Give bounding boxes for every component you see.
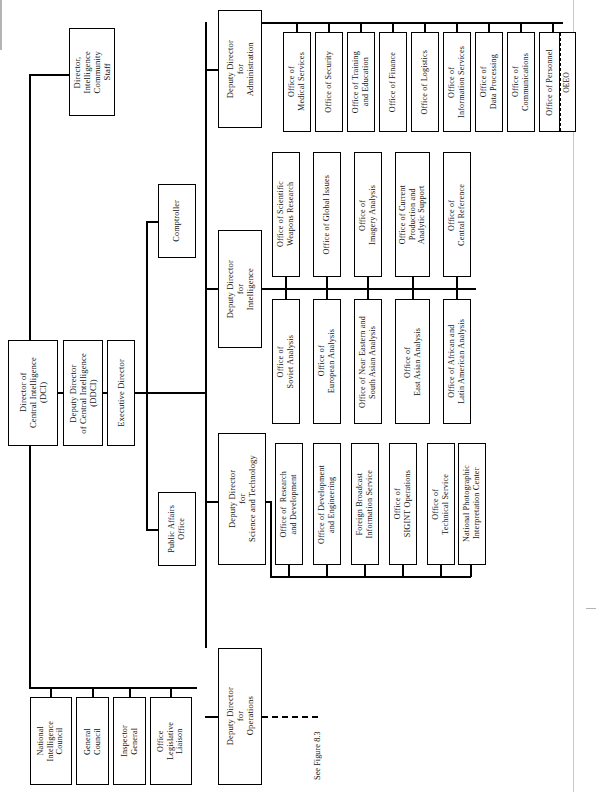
staff-drop-2 <box>129 687 131 698</box>
node-ic-staff-label: Director, Intelligence Community Staff <box>72 51 113 93</box>
page-tick-left <box>0 0 2 50</box>
node-comptroller[interactable]: Comptroller <box>158 184 196 258</box>
intel-low-drop-4 <box>456 288 458 300</box>
node-comptroller-label: Comptroller <box>172 200 182 242</box>
node-label: Office Legislative Liaison <box>156 722 185 760</box>
node-label: Office of Central Reference <box>447 184 466 246</box>
node-dd-intelligence-label: Deputy Director for Intelligence <box>225 260 255 318</box>
scitech-drop-2 <box>364 564 366 577</box>
node-office-legislative-liaison[interactable]: Office Legislative Liaison <box>150 697 192 785</box>
node-label: Foreign Broadcast Information Service <box>355 470 374 539</box>
node-general-council[interactable]: General Council <box>76 697 109 785</box>
node-label: Office of Security <box>324 51 334 113</box>
node-office-training-education[interactable]: Office of Training and Education <box>347 32 375 132</box>
node-dd-intelligence[interactable]: Deputy Director for Intelligence <box>218 230 262 348</box>
node-office-current-production[interactable]: Office of Current Production and Analyti… <box>395 152 430 277</box>
link-publicaffairs-vertical <box>146 392 148 530</box>
node-office-technical-service[interactable]: Office of Technical Service <box>427 443 455 565</box>
staff-drop-0 <box>50 687 52 698</box>
node-label: Office of Finance <box>388 52 398 112</box>
admin-drop-1 <box>328 22 330 33</box>
node-dci[interactable]: Director of Central Intelligence (DCI) <box>8 340 58 446</box>
node-office-central-reference[interactable]: Office of Central Reference <box>443 152 471 277</box>
node-executive-director-label: Executive Director <box>116 359 126 427</box>
scitech-drop-4 <box>440 564 442 577</box>
node-ic-staff[interactable]: Director, Intelligence Community Staff <box>69 28 115 116</box>
node-executive-director[interactable]: Executive Director <box>107 340 135 446</box>
node-office-african-latin-american-analysis[interactable]: Office of African and Latin American Ana… <box>443 299 471 424</box>
node-office-sigint-operations[interactable]: Office of SIGINT Operations <box>389 443 417 565</box>
node-office-near-eastern-south-asian-analysis[interactable]: Office of Near Eastern and South Asian A… <box>354 299 382 424</box>
node-label: Office of Scientific Weapons Research <box>276 181 295 247</box>
admin-drop-4 <box>424 22 426 33</box>
node-label: Inspector General <box>120 725 139 757</box>
figure-reference-note: See Figure 8.3 <box>313 700 327 780</box>
node-dd-operations-label: Deputy Director for Operations <box>225 687 255 745</box>
link-ddci-exec <box>102 392 108 394</box>
node-label: Office of Current Production and Analyti… <box>398 185 427 244</box>
node-label: Office of Communications <box>511 53 530 111</box>
main-spine <box>205 22 207 648</box>
node-label: Office of Data Processing <box>479 54 498 109</box>
node-office-development-engineering[interactable]: Office of Development and Engineering <box>313 443 341 565</box>
node-foreign-broadcast-information-service[interactable]: Foreign Broadcast Information Service <box>351 443 379 565</box>
node-dd-science-technology[interactable]: Deputy Director for Science and Technolo… <box>218 433 266 565</box>
link-operations-figure-reference <box>262 716 318 718</box>
node-label: Office of Imagery Analysis <box>358 185 377 245</box>
link-dci-icstaff-horizontal <box>29 74 70 76</box>
node-public-affairs-office[interactable]: Public Affairs Office <box>158 492 196 566</box>
scitech-bus-riser <box>270 501 272 577</box>
node-label: Office of Soviet Analysis <box>276 335 295 388</box>
node-office-logistics[interactable]: Office of Logistics <box>411 32 439 132</box>
node-ddci-label: Deputy Director of Central Intelligence … <box>68 353 98 434</box>
staff-drop-3 <box>170 687 172 698</box>
node-office-information-services[interactable]: Office of Information Services <box>443 32 471 132</box>
admin-drop-5 <box>456 22 458 33</box>
link-comptroller-vertical <box>146 221 148 392</box>
node-dci-label: Director of Central Intelligence (DCI) <box>18 357 48 428</box>
node-label: Office of Personnel <box>545 49 555 116</box>
divider-personnel-oeeo <box>560 33 561 131</box>
node-public-affairs-label: Public Affairs Office <box>167 505 186 553</box>
node-office-european-analysis[interactable]: Office of European Analysis <box>313 299 341 424</box>
node-inspector-general[interactable]: Inspector General <box>113 697 146 785</box>
node-office-personnel[interactable]: Office of Personnel <box>539 32 560 132</box>
link-comptroller-horizontal <box>146 221 159 223</box>
node-national-intelligence-council[interactable]: National Intelligence Council <box>30 697 72 785</box>
link-exec-to-spine <box>134 392 206 394</box>
admin-bus-stub <box>261 22 283 24</box>
node-label: National Photographic Interpretation Cen… <box>462 465 481 542</box>
node-label: Office of African and Latin American Ana… <box>447 319 466 404</box>
link-dci-staffbus-vertical <box>29 445 31 688</box>
node-label: Office of Logistics <box>420 50 430 115</box>
link-publicaffairs-horizontal <box>146 529 159 531</box>
node-office-research-development[interactable]: Office of Research and Development <box>275 443 303 565</box>
node-label: Office of European Analysis <box>317 329 336 393</box>
node-office-communications[interactable]: Office of Communications <box>507 32 535 132</box>
node-office-scientific-weapons-research[interactable]: Office of Scientific Weapons Research <box>272 152 300 277</box>
intel-low-drop-0 <box>285 288 287 300</box>
node-office-imagery-analysis[interactable]: Office of Imagery Analysis <box>354 152 382 277</box>
link-dci-ddci <box>57 392 64 394</box>
node-office-data-processing[interactable]: Office of Data Processing <box>475 32 503 132</box>
node-label: General Council <box>83 728 102 755</box>
node-office-global-issues[interactable]: Office of Global Issues <box>313 152 341 277</box>
node-office-security[interactable]: Office of Security <box>315 32 343 132</box>
node-ddci[interactable]: Deputy Director of Central Intelligence … <box>63 340 103 446</box>
staff-bus <box>29 687 197 689</box>
node-office-medical-services[interactable]: Office of Medical Services <box>283 32 311 132</box>
intel-low-drop-2 <box>367 288 369 300</box>
node-office-finance[interactable]: Office of Finance <box>379 32 407 132</box>
node-dd-operations[interactable]: Deputy Director for Operations <box>218 648 262 785</box>
page-tick-mid <box>586 608 596 609</box>
scitech-drop-0 <box>288 564 290 577</box>
node-office-east-asian-analysis[interactable]: Office of East Asian Analysis <box>395 299 430 424</box>
link-spine-dd-intel <box>205 288 219 290</box>
node-label: Office of Medical Services <box>287 52 306 111</box>
node-national-photographic-interpretation-center[interactable]: National Photographic Interpretation Cen… <box>458 443 486 565</box>
node-office-soviet-analysis[interactable]: Office of Soviet Analysis <box>272 299 300 424</box>
node-oeeo[interactable]: OEEO <box>560 32 576 132</box>
link-spine-dd-admin <box>205 69 219 71</box>
node-dd-administration[interactable]: Deputy Director for Administration <box>218 10 262 128</box>
node-label: Office of Training and Education <box>351 51 370 113</box>
